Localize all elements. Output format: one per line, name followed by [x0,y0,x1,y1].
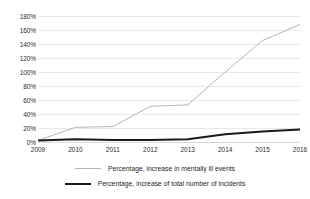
y-axis-tick-label: 0% [27,139,36,146]
line-chart: 180%160%140%120%100%80%60%40%20%0% 20092… [0,0,310,199]
y-axis-tick-label: 80% [23,83,36,90]
y-axis-tick-label: 140% [20,41,36,48]
y-axis-tick-label: 180% [20,13,36,20]
chart-legend: Percentage, increase in mentally ill eve… [0,161,310,191]
legend-item: Percentage, increase of total number of … [0,176,310,191]
legend-label: Percentage, increase in mentally ill eve… [108,164,235,173]
y-axis-tick-label: 60% [23,97,36,104]
x-axis-tick-label: 2010 [68,146,82,154]
x-axis-tick-label: 2015 [255,146,269,154]
y-axis-tick-label: 20% [23,125,36,132]
x-axis-tick-label: 2012 [143,146,157,154]
legend-swatch-icon [75,168,101,169]
legend-swatch-icon [65,183,91,185]
y-axis-tick-label: 40% [23,111,36,118]
series-line [38,129,300,140]
y-axis-tick-label: 100% [20,69,36,76]
legend-label: Percentage, increase of total number of … [98,179,246,188]
x-axis-tick-label: 2016 [293,146,307,154]
series-line [38,24,300,140]
y-axis-tick-label: 120% [20,55,36,62]
legend-item: Percentage, increase in mentally ill eve… [0,161,310,176]
y-axis-tick-label: 160% [20,27,36,34]
y-axis-labels: 180%160%140%120%100%80%60%40%20%0% [0,0,36,142]
x-axis-tick-label: 2011 [106,146,120,154]
plot-area [38,16,300,142]
x-axis-labels: 20092010201120122013201420152016 [38,146,300,158]
x-axis-tick-label: 2013 [180,146,194,154]
x-axis-tick-label: 2014 [218,146,232,154]
x-axis-tick-label: 2009 [31,146,45,154]
gridline [38,142,300,143]
series-layer [38,16,300,142]
